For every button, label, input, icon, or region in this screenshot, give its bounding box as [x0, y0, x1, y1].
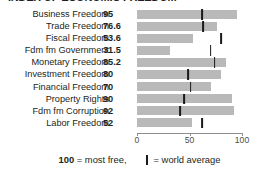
axis-tick-label: 0 — [135, 135, 140, 145]
chart-legend: 100 = most free, = world average — [0, 154, 279, 165]
world-average-marker-icon — [214, 57, 216, 68]
row-plot — [137, 106, 242, 115]
row-plot — [137, 118, 242, 127]
row-plot — [137, 58, 242, 67]
row-label-fdm-fm-corruption: Fdm fm Corruption — [0, 105, 109, 117]
row-label-investment-freedom: Investment Freedom — [0, 68, 109, 80]
world-average-marker-icon — [190, 82, 192, 93]
row-value: 95 — [103, 8, 125, 20]
world-average-marker-icon — [202, 21, 204, 32]
row-plot — [137, 82, 242, 91]
world-average-marker-icon — [201, 9, 203, 20]
chart-row: Financial Freedom70 — [0, 81, 279, 93]
row-value: 53.6 — [103, 32, 125, 44]
row-plot — [137, 70, 242, 79]
row-value: 76.6 — [103, 20, 125, 32]
chart-row: Labor Freedom52 — [0, 117, 279, 129]
row-label-business-freedom: Business Freedom — [0, 8, 109, 20]
chart-row: Fiscal Freedom53.6 — [0, 32, 279, 44]
score-bar — [137, 106, 234, 115]
economic-freedom-chart: Business Freedom95Trade Freedom76.6Fisca… — [0, 4, 279, 175]
chart-row: Investment Freedom80 — [0, 68, 279, 80]
score-bar — [137, 82, 211, 91]
legend-most-free-text: = most free, — [77, 154, 127, 165]
axis-tick-label: 100 — [235, 135, 249, 145]
row-label-fiscal-freedom: Fiscal Freedom — [0, 32, 109, 44]
chart-row: Business Freedom95 — [0, 8, 279, 20]
legend-most-free-value: 100 — [58, 154, 74, 165]
row-value: 90 — [103, 93, 125, 105]
row-plot — [137, 22, 242, 31]
chart-rows: Business Freedom95Trade Freedom76.6Fisca… — [0, 8, 279, 129]
score-bar — [137, 22, 217, 31]
row-plot — [137, 34, 242, 43]
world-average-marker-icon — [183, 94, 185, 105]
score-bar — [137, 34, 193, 43]
chart-row: Trade Freedom76.6 — [0, 20, 279, 32]
x-axis — [137, 133, 242, 134]
row-plot — [137, 10, 242, 19]
row-value: 70 — [103, 81, 125, 93]
world-average-marker-icon — [220, 33, 222, 44]
chart-row: Property Rights90 — [0, 93, 279, 105]
world-average-marker-icon — [179, 106, 181, 117]
row-value: 52 — [103, 117, 125, 129]
row-label-property-rights: Property Rights — [0, 93, 109, 105]
row-value: 85.2 — [103, 56, 125, 68]
world-average-marker-icon — [201, 118, 203, 129]
world-average-marker-icon — [188, 69, 190, 80]
score-bar — [137, 118, 192, 127]
chart-row: Fdm fm Government31.5 — [0, 44, 279, 56]
axis-tick-label: 50 — [185, 135, 195, 145]
row-label-trade-freedom: Trade Freedom — [0, 20, 109, 32]
row-label-fdm-fm-government: Fdm fm Government — [0, 44, 109, 56]
score-bar — [137, 70, 221, 79]
row-label-labor-freedom: Labor Freedom — [0, 117, 109, 129]
world-average-marker-icon — [210, 45, 212, 56]
legend-world-average-text: = world average — [154, 154, 221, 165]
page-title: INDEX OF ECONOMIC FREEDOM — [8, 0, 177, 3]
row-value: 80 — [103, 68, 125, 80]
chart-row: Monetary Freedom85.2 — [0, 56, 279, 68]
row-value: 31.5 — [103, 44, 125, 56]
score-bar — [137, 10, 237, 19]
row-value: 92 — [103, 105, 125, 117]
score-bar — [137, 46, 170, 55]
chart-row: Fdm fm Corruption92 — [0, 105, 279, 117]
row-label-monetary-freedom: Monetary Freedom — [0, 56, 109, 68]
row-label-financial-freedom: Financial Freedom — [0, 81, 109, 93]
row-plot — [137, 46, 242, 55]
world-average-marker-icon — [146, 155, 148, 165]
row-plot — [137, 94, 242, 103]
